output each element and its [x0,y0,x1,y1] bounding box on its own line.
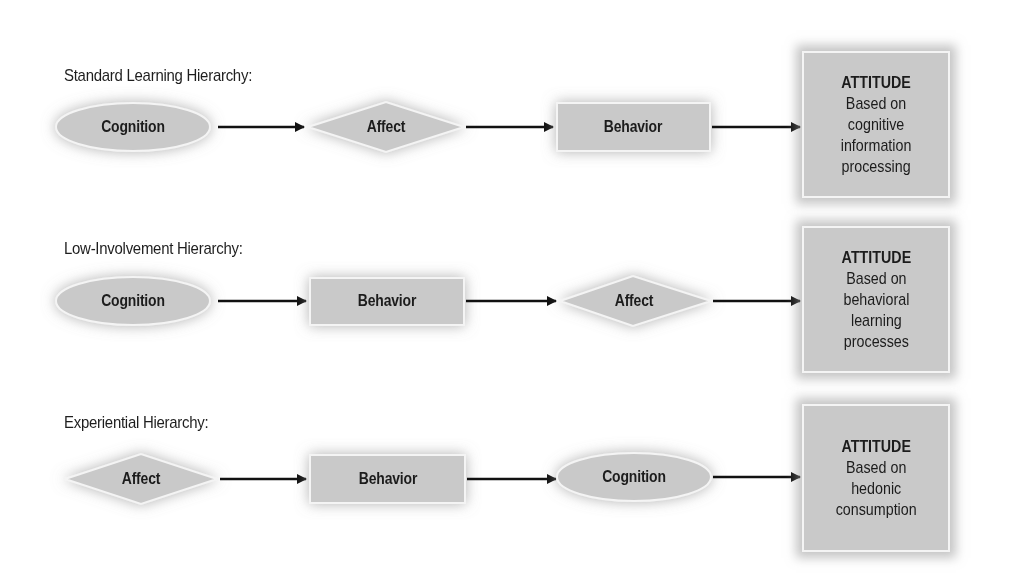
attitude-line: processes [841,331,911,352]
attitude-line: processing [841,156,912,177]
attitude-box-hedonic: ATTITUDE Based on hedonic consumption [802,404,950,552]
attitude-line: Based on [836,457,917,478]
step-label: Behavior [584,117,682,137]
step-label: Behavior [338,291,436,311]
attitude-title: ATTITUDE [841,72,912,93]
attitude-line: cognitive [841,114,912,135]
attitude-line: consumption [836,499,917,520]
attitude-box-cognitive: ATTITUDE Based on cognitive information … [802,51,950,198]
step-label: Affect [92,469,190,489]
step-label: Cognition [585,467,683,487]
attitude-line: learning [841,310,911,331]
step-label: Cognition [84,117,182,137]
attitude-line: hedonic [836,478,917,499]
step-label: Cognition [84,291,182,311]
attitude-title: ATTITUDE [836,436,917,457]
attitude-title: ATTITUDE [841,247,911,268]
attitude-line: Based on [841,93,912,114]
attitude-line: behavioral [841,289,911,310]
attitude-line: Based on [841,268,911,289]
attitude-box-behavioral: ATTITUDE Based on behavioral learning pr… [802,226,950,373]
step-label: Behavior [339,469,437,489]
step-label: Affect [585,291,683,311]
attitude-line: information [841,135,912,156]
step-label: Affect [337,117,435,137]
